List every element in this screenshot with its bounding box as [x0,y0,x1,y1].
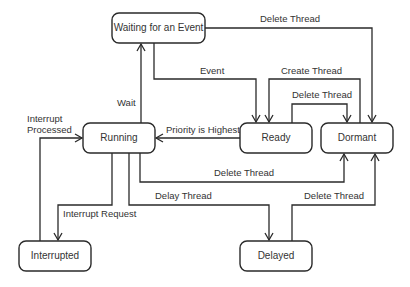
state-label: Delayed [258,250,295,261]
edge-label: Delete Thread [304,190,364,201]
edge-label: Priority is Highest [166,124,240,135]
state-diagram: Delete Thread Event Create Thread Delete… [0,0,410,287]
state-dormant: Dormant [321,123,393,153]
edge-label-line1: Interrupt [27,113,63,124]
edge-interrupted-to-running: Interrupt Processed [27,113,82,241]
edge-ready-to-dormant: Delete Thread [292,89,352,123]
state-label: Interrupted [31,250,79,261]
edge-label: Create Thread [281,65,342,76]
edge-waiting-to-ready: Event [154,43,260,122]
edge-label-line2: Processed [27,124,72,135]
edge-label: Wait [117,97,136,108]
edge-label: Delete Thread [260,13,320,24]
state-ready: Ready [240,123,312,153]
state-label: Waiting for an Event [114,22,204,33]
state-label: Running [100,132,137,143]
state-delayed: Delayed [240,241,312,271]
edge-running-to-waiting: Wait [117,44,145,123]
edge-running-to-dormant: Delete Thread [140,153,348,182]
state-interrupted: Interrupted [19,241,91,271]
state-label: Ready [262,132,291,143]
edge-label: Delete Thread [292,89,352,100]
edge-label: Interrupt Request [63,208,137,219]
edge-delayed-to-dormant: Delete Thread [292,154,379,241]
edge-running-to-interrupted: Interrupt Request [54,153,137,240]
state-running: Running [83,123,155,153]
edge-label: Delay Thread [155,190,212,201]
edge-ready-to-running: Priority is Highest [156,124,240,142]
edge-label: Event [200,65,225,76]
edge-label: Delete Thread [214,167,274,178]
state-label: Dormant [338,132,377,143]
state-waiting-for-event: Waiting for an Event [112,13,205,43]
